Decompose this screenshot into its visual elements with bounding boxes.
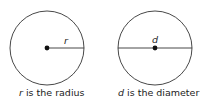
left-center-point [45,46,50,51]
radius-label: r [64,35,69,46]
radius-figure: r r is the radius [10,11,85,98]
diameter-label: d [152,34,159,45]
right-center-point [153,46,158,51]
diameter-caption: d is the diameter [118,87,199,98]
diameter-figure: d d is the diameter [118,11,199,98]
diameter-caption-text: is the diameter [124,87,199,98]
radius-caption: r is the radius [19,87,85,98]
circle-diagrams: r r is the radius d d is the diameter [0,0,200,102]
radius-caption-text: is the radius [23,87,85,98]
